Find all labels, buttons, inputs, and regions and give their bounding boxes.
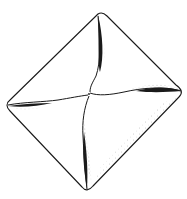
stipple-upper-left-inner [10,108,20,126]
center-junction [88,93,90,95]
grain-illustration: Stippled pen-and-ink line drawing of a q… [0,0,187,199]
furrow-top-edge [90,16,100,92]
grain-drawing-svg [0,0,187,199]
grain-outline [7,13,181,190]
stipple-lower-right [94,97,178,185]
